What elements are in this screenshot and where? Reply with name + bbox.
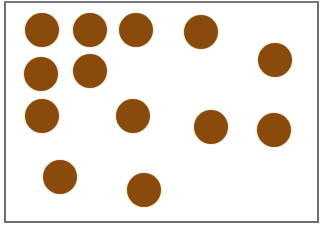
dot-8 <box>25 99 59 133</box>
dot-6 <box>24 57 58 91</box>
dot-10 <box>194 110 228 144</box>
dot-1 <box>25 13 59 47</box>
dot-9 <box>116 99 150 133</box>
dot-2 <box>73 13 107 47</box>
dot-5 <box>258 43 292 77</box>
dot-7 <box>73 54 107 88</box>
dot-11 <box>257 113 291 147</box>
dot-13 <box>127 173 161 207</box>
dot-12 <box>43 160 77 194</box>
dot-3 <box>119 13 153 47</box>
dot-4 <box>184 15 218 49</box>
